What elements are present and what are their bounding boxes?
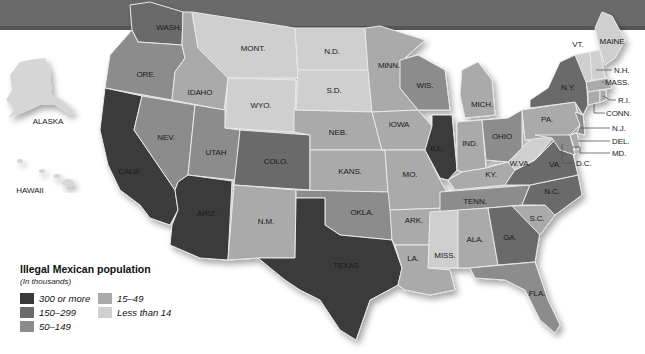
- state-mich: [460, 62, 495, 118]
- state-label-colo: COLO.: [264, 157, 288, 166]
- state-label-ny: N.Y.: [561, 83, 575, 92]
- state-label-mo: MO.: [403, 170, 418, 179]
- state-label-ark: ARK.: [405, 216, 423, 225]
- state-label-nm: N.M.: [258, 217, 275, 226]
- state-label-minn: MINN.: [378, 61, 400, 70]
- state-fla: [470, 262, 560, 333]
- state-label-mont: MONT.: [241, 44, 265, 53]
- state-label-texas: TEXAS: [333, 261, 359, 270]
- state-label-neb: NEB.: [329, 128, 347, 137]
- legend-swatch: [20, 321, 34, 332]
- legend-item: Less than 14: [98, 305, 198, 319]
- state-label-alaska: ALASKA: [33, 117, 64, 126]
- legend-label: Less than 14: [117, 307, 171, 318]
- state-label-mich: MICH.: [471, 100, 493, 109]
- state-label-nh: N.H.: [614, 66, 630, 75]
- state-label-sc: S.C.: [529, 214, 544, 223]
- state-label-nc: N.C.: [544, 187, 560, 196]
- state-label-ala: ALA.: [467, 235, 484, 244]
- state-label-idaho: IDAHO: [188, 88, 213, 97]
- legend-item: 300 or more: [20, 291, 98, 305]
- state-label-ariz: ARIZ.: [197, 209, 217, 218]
- legend-swatch: [20, 307, 34, 318]
- state-label-wyo: WYO.: [251, 101, 272, 110]
- state-label-md: MD.: [612, 149, 626, 158]
- state-label-conn: CONN.: [606, 109, 631, 118]
- state-label-kans: KANS.: [338, 167, 362, 176]
- state-label-ind: IND.: [462, 139, 478, 148]
- state-label-tenn: TENN.: [463, 197, 487, 206]
- state-label-pa: PA.: [541, 115, 553, 124]
- legend-swatch: [98, 307, 112, 318]
- legend-item: 150–299: [20, 305, 98, 319]
- state-label-del: DEL.: [612, 137, 629, 146]
- state-label-la: LA.: [407, 254, 419, 263]
- state-label-va: VA.: [549, 160, 561, 169]
- legend-subtitle: (In thousands): [20, 277, 198, 286]
- state-label-wis: WIS.: [417, 81, 434, 90]
- state-conn: [588, 90, 600, 105]
- state-label-nd: N.D.: [324, 47, 340, 56]
- state-label-nj: N.J.: [612, 124, 626, 133]
- legend-item: 50–149: [20, 319, 98, 333]
- state-label-fla: FLA.: [529, 289, 546, 298]
- state-label-hawaii: HAWAII: [16, 186, 43, 195]
- state-hawaii: [17, 159, 74, 187]
- state-label-vt: VT.: [572, 40, 583, 49]
- state-label-okla: OKLA.: [350, 208, 373, 217]
- legend-label: 300 or more: [39, 293, 90, 304]
- state-label-utah: UTAH: [206, 148, 227, 157]
- state-label-ky: KY.: [485, 170, 497, 179]
- legend-label: 15–49: [117, 293, 143, 304]
- state-label-ohio: OHIO: [492, 132, 512, 141]
- state-label-dc: D.C.: [576, 159, 592, 168]
- state-label-ore: ORE.: [136, 70, 155, 79]
- state-iowa: [372, 110, 432, 150]
- state-label-nev: NEV.: [157, 133, 175, 142]
- state-label-ri: R.I.: [618, 96, 630, 105]
- legend-label: 50–149: [39, 321, 71, 332]
- legend-swatch: [98, 293, 112, 304]
- state-label-wva: W.VA.: [509, 159, 530, 168]
- state-label-ga: GA.: [503, 233, 516, 242]
- legend-swatch: [20, 293, 34, 304]
- legend-title: Illegal Mexican population: [20, 263, 198, 275]
- state-label-wash: WASH.: [156, 23, 181, 32]
- state-label-sd: S.D.: [326, 86, 341, 95]
- state-label-miss: MISS.: [434, 251, 455, 260]
- state-label-ill: ILL.: [431, 144, 444, 153]
- map-legend: Illegal Mexican population (In thousands…: [20, 263, 198, 333]
- state-alaska: [6, 58, 75, 118]
- legend-label: 150–299: [39, 307, 76, 318]
- state-label-calif: CALIF.: [118, 167, 141, 176]
- state-label-iowa: IOWA: [389, 120, 410, 129]
- state-label-maine: MAINE: [600, 37, 625, 46]
- legend-item: 15–49: [98, 291, 198, 305]
- state-label-mass: MASS.: [605, 78, 629, 87]
